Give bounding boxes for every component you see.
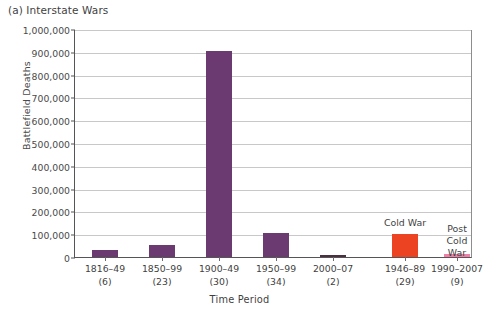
x-tick-label: 1950–99(34) (256, 263, 296, 288)
x-tick-count: (6) (85, 276, 125, 289)
y-tick-label: 700,000 (32, 93, 70, 104)
y-tick-mark (71, 98, 75, 99)
y-tick-label: 300,000 (32, 184, 70, 195)
y-tick-label: 0 (64, 253, 70, 264)
y-tick-mark (71, 212, 75, 213)
y-tick-mark (71, 30, 75, 31)
y-tick-mark (71, 144, 75, 145)
x-tick-label: 2000–07(2) (313, 263, 353, 288)
x-tick-count: (9) (431, 276, 483, 289)
gridline (75, 121, 471, 122)
x-tick-period: 1950–99 (256, 263, 296, 274)
y-tick-mark (71, 121, 75, 122)
x-tick-mark (405, 257, 406, 261)
x-axis-title: Time Period (0, 294, 479, 305)
y-tick-mark (71, 75, 75, 76)
y-tick-label: 400,000 (32, 161, 70, 172)
y-tick-mark (71, 235, 75, 236)
y-tick-label: 200,000 (32, 207, 70, 218)
x-tick-period: 2000–07 (313, 263, 353, 274)
x-tick-label: 1850–99(23) (142, 263, 182, 288)
bar-1946-89 (392, 234, 418, 257)
x-tick-label: 1816–49(6) (85, 263, 125, 288)
x-tick-label: 1946–89(29) (385, 263, 425, 288)
x-tick-mark (219, 257, 220, 261)
x-tick-label: 1990–2007(9) (431, 263, 483, 288)
y-tick-label: 600,000 (32, 116, 70, 127)
x-tick-count: (2) (313, 276, 353, 289)
y-tick-label: 800,000 (32, 70, 70, 81)
gridline (75, 53, 471, 54)
gridline (75, 167, 471, 168)
plot-inner: 1,000,000900,000800,000700,000600,000500… (75, 30, 471, 257)
gridline (75, 98, 471, 99)
annotation-post-cold-war: Post Cold War (447, 223, 468, 259)
plot-area: 1,000,000900,000800,000700,000600,000500… (74, 30, 472, 258)
bar-1950-99 (263, 233, 289, 257)
y-tick-mark (71, 258, 75, 259)
y-tick-mark (71, 52, 75, 53)
gridline (75, 190, 471, 191)
bar-1900-49 (206, 51, 232, 257)
gridline (75, 212, 471, 213)
x-tick-mark (162, 257, 163, 261)
y-tick-label: 900,000 (32, 47, 70, 58)
annotation-cold-war: Cold War (384, 217, 426, 229)
y-tick-label: 1,000,000 (23, 25, 70, 36)
figure-title: (a) Interstate Wars (8, 4, 108, 16)
x-tick-count: (23) (142, 276, 182, 289)
x-tick-mark (276, 257, 277, 261)
x-tick-period: 1946–89 (385, 263, 425, 274)
x-tick-count: (30) (199, 276, 239, 289)
x-tick-period: 1990–2007 (431, 263, 483, 274)
x-tick-label: 1900–49(30) (199, 263, 239, 288)
x-tick-period: 1850–99 (142, 263, 182, 274)
x-tick-period: 1816–49 (85, 263, 125, 274)
y-axis-title: Battlefield Deaths (21, 36, 32, 176)
x-tick-count: (34) (256, 276, 296, 289)
y-tick-mark (71, 166, 75, 167)
gridline (75, 76, 471, 77)
gridline (75, 144, 471, 145)
gridline (75, 30, 471, 31)
gridline (75, 257, 471, 258)
x-tick-mark (333, 257, 334, 261)
y-tick-label: 100,000 (32, 230, 70, 241)
x-tick-count: (29) (385, 276, 425, 289)
x-tick-period: 1900–49 (199, 263, 239, 274)
y-tick-label: 500,000 (32, 139, 70, 150)
bar-1816-49 (92, 250, 118, 257)
bar-1850-99 (149, 245, 175, 257)
y-tick-mark (71, 189, 75, 190)
x-tick-mark (105, 257, 106, 261)
